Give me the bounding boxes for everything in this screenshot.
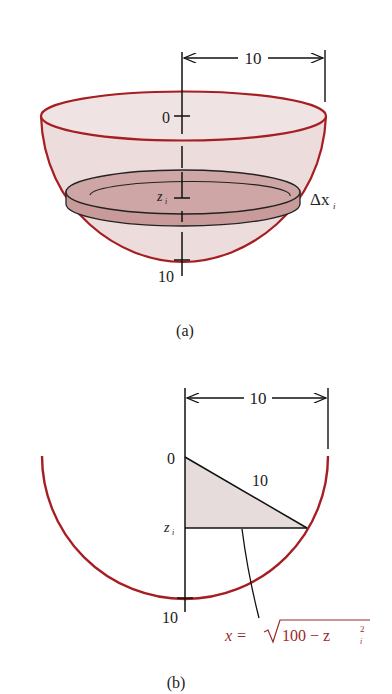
equation: x = 100 − z 2 i [224,620,370,646]
svg-text:i: i [360,637,362,646]
figure-a: 10 0 10 z i Δx i (a) [41,49,336,340]
svg-text:z: z [156,189,163,204]
svg-text:i: i [165,197,167,206]
axis-top-label-b: 0 [167,450,175,467]
svg-text:i: i [172,528,174,537]
slice-depth-label-b: z i [163,520,174,537]
caption-a: (a) [176,322,194,340]
leader-line [242,529,259,618]
figure-b: 10 0 10 10 z i x = 100 − z 2 i (b) [42,388,370,692]
hemisphere-diagram: 10 0 10 z i Δx i (a) 10 [0,0,392,694]
dimension-label-b: 10 [250,389,267,408]
svg-text:i: i [333,201,336,211]
svg-text:100 − z: 100 − z [282,627,330,644]
axis-bottom-label-a: 10 [158,268,174,285]
svg-text:z: z [163,520,170,535]
slice-thickness-label-a: Δx i [310,190,336,211]
axis-bottom-label-b: 10 [162,609,178,626]
svg-text:2: 2 [360,624,365,634]
dimension-label-a: 10 [245,49,262,68]
svg-text:Δx: Δx [310,190,330,209]
axis-top-label-a: 0 [162,109,170,126]
svg-text:x =: x = [224,627,247,644]
hypotenuse-label-b: 10 [252,472,268,489]
caption-b: (b) [167,674,186,692]
